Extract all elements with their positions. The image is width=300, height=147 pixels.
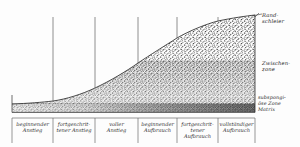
stage-label-2: fortgeschrit- tener Anstieg: [53, 121, 95, 133]
zone-label-randschleier: Rand- schleier: [262, 12, 284, 24]
stage-label-4: beginnender Aufbrauch: [138, 121, 177, 133]
stage-label-3: voller Anstieg: [95, 121, 138, 133]
zone-label-zwischenzone: Zwischen- zone: [262, 60, 290, 72]
stage-label-1: beginnender Anstieg: [12, 121, 53, 133]
zone-label-matrix: subspongi- öse Zone Matrix: [258, 95, 286, 112]
stage-label-5: fortgeschrit- tener Aufbrauch: [177, 121, 218, 139]
diagram-figure: Rand- schleier Zwischen- zone subspongi-…: [0, 0, 300, 147]
stage-label-6: vollständiger Aufbrauch: [218, 121, 255, 133]
